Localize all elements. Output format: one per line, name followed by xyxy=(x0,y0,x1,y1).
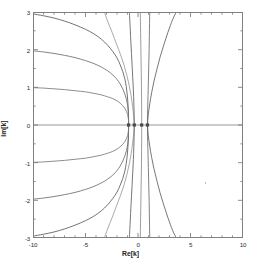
y-tick-label: 0 xyxy=(17,122,30,129)
plot-area xyxy=(33,12,243,238)
x-tick-label: 0 xyxy=(136,241,139,248)
curve-steep-upper-right-outer xyxy=(147,12,176,125)
y-tick-label: -3 xyxy=(17,235,30,242)
complex-plane-plot: -10-50510 -3-2-10123 Re[k] Im[k] xyxy=(0,0,261,271)
x-axis-label: Re[k] xyxy=(0,250,261,257)
x-tick-label: 5 xyxy=(189,241,192,248)
curve-branch-upper-1 xyxy=(33,14,129,125)
curve-branch-lower-2 xyxy=(33,125,129,199)
y-tick-label: 3 xyxy=(17,9,30,16)
curve-steep-lower-left-inner xyxy=(129,125,134,238)
x-tick-label: -10 xyxy=(29,241,37,248)
curve-branch-upper-3 xyxy=(33,88,129,125)
curve-steep-upper-center xyxy=(140,12,141,125)
curve-branch-lower-1 xyxy=(33,125,129,236)
y-tick-label: 2 xyxy=(17,46,30,53)
curve-branch-upper-2 xyxy=(33,51,129,125)
y-axis-label: Im[k] xyxy=(0,120,7,136)
curve-branch-lower-3 xyxy=(33,125,129,162)
y-tick-label: -2 xyxy=(17,197,30,204)
image-artifact-speck xyxy=(205,182,206,184)
plot-canvas xyxy=(33,12,243,238)
convergence-marker xyxy=(140,123,143,126)
y-tick-label: -1 xyxy=(17,159,30,166)
convergence-marker xyxy=(127,123,130,126)
convergence-marker xyxy=(133,123,136,126)
y-tick-label: 1 xyxy=(17,84,30,91)
convergence-marker xyxy=(146,123,149,126)
x-tick-label: 10 xyxy=(240,241,246,248)
curve-steep-lower-center xyxy=(140,125,141,238)
curve-steep-upper-left-inner xyxy=(129,12,134,125)
x-tick-label: -5 xyxy=(83,241,88,248)
curve-steep-lower-right-outer xyxy=(147,125,176,238)
